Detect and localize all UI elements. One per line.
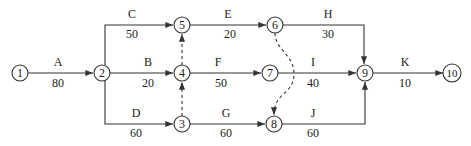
activity-f-name: F (215, 55, 222, 69)
node-7: 7 (262, 65, 278, 81)
node-5-label: 5 (179, 18, 185, 32)
activity-c-name: C (128, 7, 136, 21)
activity-g-name: G (222, 106, 231, 120)
network-diagram: A 80 C 50 B 20 D 60 E 20 F 50 G 60 H (0, 0, 471, 146)
activity-g-duration: 60 (220, 126, 232, 140)
node-2-label: 2 (99, 66, 105, 80)
activity-c-duration: 50 (126, 27, 138, 41)
activity-a: A 80 (28, 55, 93, 90)
node-3: 3 (174, 116, 190, 132)
activity-d: D 60 (105, 81, 173, 140)
activity-k-duration: 10 (399, 76, 411, 90)
node-8-label: 8 (271, 117, 277, 131)
activity-f: F 50 (190, 55, 261, 90)
activity-i-name: I (311, 55, 315, 69)
node-1: 1 (12, 65, 28, 81)
node-4-label: 4 (179, 66, 185, 80)
activity-c: C 50 (105, 7, 173, 65)
activity-b-name: B (144, 55, 152, 69)
activity-e: E 20 (190, 7, 266, 41)
activity-a-duration: 80 (52, 76, 64, 90)
node-2: 2 (94, 65, 110, 81)
node-10-label: 10 (447, 67, 459, 79)
node-6-label: 6 (272, 18, 278, 32)
node-5: 5 (174, 17, 190, 33)
node-7-label: 7 (267, 66, 273, 80)
node-9-label: 9 (362, 66, 368, 80)
node-8: 8 (266, 116, 282, 132)
activity-i-duration: 40 (307, 76, 319, 90)
activity-a-name: A (54, 55, 63, 69)
activity-h: H 30 (283, 7, 364, 64)
node-1-label: 1 (17, 66, 23, 80)
node-9: 9 (357, 65, 373, 81)
node-4: 4 (174, 65, 190, 81)
node-10: 10 (443, 64, 461, 82)
activity-h-name: H (324, 7, 333, 21)
activity-g: G 60 (190, 106, 265, 140)
activity-b: B 20 (110, 55, 173, 90)
activity-d-duration: 60 (130, 126, 142, 140)
activity-e-name: E (224, 7, 231, 21)
node-3-label: 3 (179, 117, 185, 131)
activity-k-name: K (401, 55, 410, 69)
activity-b-duration: 20 (142, 76, 154, 90)
activity-k: K 10 (373, 55, 443, 90)
activity-e-duration: 20 (224, 27, 236, 41)
node-6: 6 (267, 17, 283, 33)
activity-f-duration: 50 (215, 76, 227, 90)
activity-d-name: D (132, 106, 141, 120)
activity-j-duration: 60 (307, 126, 319, 140)
activity-j-name: J (311, 106, 316, 120)
activity-j: J 60 (282, 82, 365, 140)
activity-h-duration: 30 (322, 27, 334, 41)
